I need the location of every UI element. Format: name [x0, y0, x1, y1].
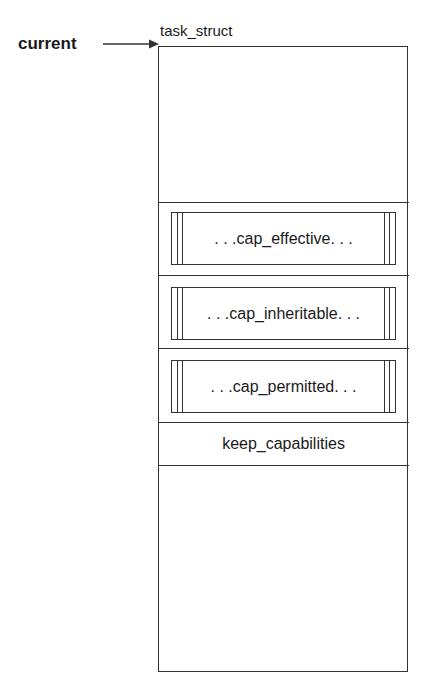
arrow-right-icon — [103, 37, 159, 51]
cap-inheritable-label: . . .cap_inheritable. . . — [172, 288, 395, 339]
cap-effective-label: . . .cap_effective. . . — [172, 213, 395, 264]
task-struct-box — [158, 46, 408, 672]
field-divider — [158, 202, 409, 203]
cap-permitted-label: . . .cap_permitted. . . — [172, 361, 395, 412]
field-divider — [158, 348, 409, 349]
field-divider — [158, 465, 409, 466]
cap-inheritable-field: . . .cap_inheritable. . . — [171, 287, 396, 340]
current-pointer-label: current — [18, 34, 77, 54]
cap-permitted-field: . . .cap_permitted. . . — [171, 360, 396, 413]
field-divider — [158, 275, 409, 276]
cap-effective-field: . . .cap_effective. . . — [171, 212, 396, 265]
keep-capabilities-field: keep_capabilities — [158, 423, 409, 465]
struct-title: task_struct — [160, 22, 233, 40]
